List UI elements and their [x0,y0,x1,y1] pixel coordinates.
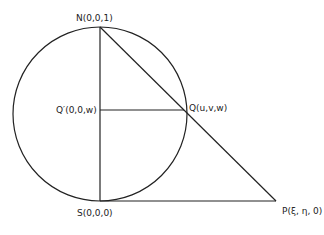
label-Q: Q(u,v,w) [189,103,227,113]
line-N-to-P [100,27,276,201]
stereographic-projection-diagram: N(0,0,1) Q′(0,0,w) Q(u,v,w) S(0,0,0) P(ξ… [0,0,324,235]
label-S: S(0,0,0) [77,208,113,218]
label-P: P(ξ, η, 0) [282,206,322,216]
label-Qprime: Q′(0,0,w) [56,105,97,115]
label-N: N(0,0,1) [76,13,113,23]
